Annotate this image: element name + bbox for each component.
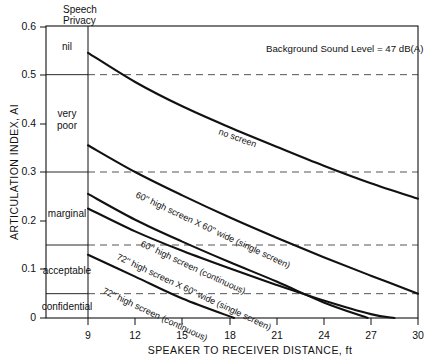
x-tick-21: 21 (271, 329, 283, 341)
chart-figure: 0 0.1 0.2 0.3 0.4 0.5 0.6 9 12 15 18 21 … (0, 0, 436, 359)
privacy-band-confidential: confidential (42, 301, 93, 312)
x-tick-18: 18 (224, 329, 236, 341)
data-curves (88, 53, 418, 318)
y-tick-0.5: 0.5 (21, 68, 36, 80)
x-axis-title: SPEAKER TO RECEIVER DISTANCE, ft (148, 344, 353, 356)
privacy-band-marginal: marginal (48, 208, 86, 219)
background-sound-annotation: Background Sound Level = 47 dB(A) (266, 43, 424, 54)
x-tick-24: 24 (318, 329, 330, 341)
privacy-band-very-poor-line2: poor (57, 120, 78, 131)
privacy-header-line2: Privacy (63, 15, 96, 26)
y-tick-0.2: 0.2 (21, 214, 36, 226)
privacy-band-nil: nil (62, 41, 72, 52)
privacy-band-acceptable: acceptable (43, 265, 92, 276)
y-tick-labels: 0 0.1 0.2 0.3 0.4 0.5 0.6 (21, 20, 36, 323)
y-tick-0.6: 0.6 (21, 20, 36, 32)
privacy-band-very-poor-line1: very (58, 108, 77, 119)
privacy-header-line1: Speech (63, 4, 97, 15)
y-axis-title: ARTICULATION INDEX, AI (8, 104, 20, 240)
x-tick-27: 27 (365, 329, 377, 341)
y-tick-0.1: 0.1 (21, 262, 36, 274)
x-tick-12: 12 (129, 329, 141, 341)
y-tick-0: 0 (30, 311, 36, 323)
y-tick-0.3: 0.3 (21, 165, 36, 177)
articulation-index-chart: 0 0.1 0.2 0.3 0.4 0.5 0.6 9 12 15 18 21 … (0, 0, 436, 359)
curve-72-continuous (88, 255, 234, 318)
y-tick-0.4: 0.4 (21, 117, 36, 129)
x-tick-labels: 9 12 15 18 21 24 27 30 (85, 329, 424, 341)
x-tick-30: 30 (412, 329, 424, 341)
x-tick-9: 9 (85, 329, 91, 341)
